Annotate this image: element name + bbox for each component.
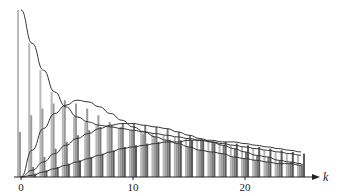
bar (146, 144, 148, 177)
bar (120, 127, 122, 177)
bar (207, 142, 209, 177)
bar (144, 125, 146, 177)
bar (113, 150, 115, 177)
bar (79, 160, 81, 177)
bar (124, 147, 126, 177)
bar (279, 160, 281, 177)
bar (111, 125, 113, 177)
bar (234, 149, 236, 177)
bar (84, 122, 86, 177)
bar (299, 165, 301, 177)
bar (243, 159, 245, 177)
bar (191, 140, 193, 177)
bar (41, 109, 43, 177)
bar (75, 104, 77, 177)
bar (256, 155, 258, 177)
bar (187, 147, 189, 177)
bar (288, 164, 290, 177)
bar (275, 152, 277, 177)
bar (219, 144, 221, 177)
bar (167, 129, 169, 177)
bar (196, 140, 198, 177)
bar (165, 140, 167, 177)
bar (225, 142, 227, 177)
bar (189, 135, 191, 177)
bar (265, 162, 267, 177)
chart: 01020 k (0, 0, 346, 196)
bar (211, 142, 213, 177)
bar (99, 127, 101, 177)
bar (135, 145, 137, 177)
bar-clusters (17, 10, 305, 177)
bar (198, 150, 200, 177)
bar (200, 139, 202, 177)
bar (77, 135, 79, 177)
bar (258, 147, 260, 177)
x-axis-label: k (323, 170, 329, 184)
bar (43, 157, 45, 177)
bar (122, 124, 124, 177)
bar (163, 135, 165, 177)
bar (178, 132, 180, 177)
bar (90, 157, 92, 177)
bar (232, 157, 234, 177)
bar (131, 130, 133, 177)
bar (213, 142, 215, 177)
bar (51, 92, 53, 177)
bar (277, 164, 279, 177)
bar (245, 152, 247, 177)
bar (169, 140, 171, 177)
bar (109, 122, 111, 177)
x-tick-label: 20 (240, 181, 252, 193)
bar (286, 154, 288, 177)
bar (297, 155, 299, 177)
bar (118, 129, 120, 177)
bar (140, 132, 142, 177)
bar (263, 150, 265, 177)
bar (88, 130, 90, 177)
bar (142, 134, 144, 177)
x-ticks: 01020 (18, 177, 251, 193)
bar (39, 70, 41, 177)
bar (230, 145, 232, 177)
bar (151, 134, 153, 177)
bar (252, 149, 254, 177)
bar (185, 139, 187, 177)
bar (247, 145, 249, 177)
bar (209, 152, 211, 177)
bar (133, 124, 135, 177)
bar (303, 154, 305, 177)
bar (176, 144, 178, 177)
bar (180, 140, 182, 177)
x-axis-arrow-icon (312, 174, 320, 180)
bar (155, 127, 157, 177)
bar (301, 164, 303, 177)
bar (68, 164, 70, 177)
bar (19, 132, 21, 177)
bar (202, 140, 204, 177)
bar (254, 160, 256, 177)
bar (157, 142, 159, 177)
bar (290, 162, 292, 177)
bar (153, 137, 155, 177)
bar (267, 157, 269, 177)
bar (30, 115, 32, 177)
x-tick-label: 10 (128, 181, 140, 193)
x-tick-label: 0 (18, 181, 24, 193)
bar (17, 10, 19, 177)
bar (95, 125, 97, 177)
bar (129, 130, 131, 177)
bar (73, 117, 75, 177)
bar (66, 142, 68, 177)
bar (101, 154, 103, 177)
bar (86, 109, 88, 177)
bar (97, 115, 99, 177)
bar (223, 145, 225, 177)
bar (221, 154, 223, 177)
